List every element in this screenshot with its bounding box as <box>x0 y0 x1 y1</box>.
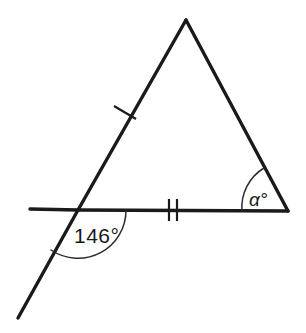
triangle-left-side <box>78 20 186 210</box>
triangle-right-side <box>186 20 288 211</box>
geometry-diagram: 146° α° <box>0 0 306 333</box>
transversal-line-segment <box>18 210 78 318</box>
triangle-base-side <box>78 210 288 211</box>
interior-angle-label: α° <box>249 189 268 210</box>
diagram-canvas: 146° α° <box>0 0 306 333</box>
baseline-extension-segment <box>30 209 78 210</box>
exterior-angle-label: 146° <box>74 224 119 247</box>
